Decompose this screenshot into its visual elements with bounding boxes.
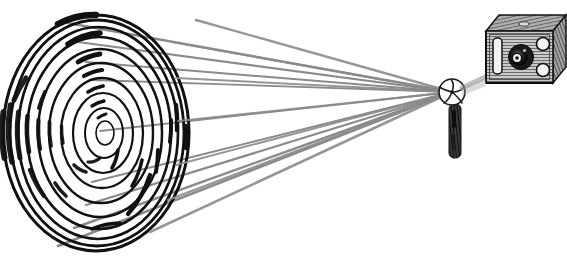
limb-accent-4 — [61, 126, 63, 143]
knob-bottom-right-icon[interactable] — [537, 64, 550, 77]
wheel-hub — [450, 90, 453, 93]
viewfinder-slot-icon[interactable] — [493, 38, 502, 74]
lens-pinhole-icon — [515, 56, 519, 60]
wheel-stem-handle[interactable] — [449, 104, 461, 158]
limb-accent-7 — [27, 116, 29, 152]
ray-diagram-svg: Pinhole camera ray diagram Engraving-sty… — [0, 0, 567, 268]
camera-top-fitting-icon[interactable] — [519, 22, 529, 26]
box-camera[interactable] — [486, 15, 566, 83]
limb-accent-8 — [17, 112, 20, 158]
handle-shadow — [452, 110, 456, 128]
lens-highlight — [523, 49, 526, 52]
limb-accent-5 — [49, 122, 51, 146]
spoked-shutter-wheel[interactable] — [439, 79, 465, 105]
limb-accent-6 — [38, 120, 40, 149]
limb-accent-10 — [2, 112, 4, 158]
tangency-right-8b — [176, 105, 177, 130]
illustration-canvas: Pinhole camera ray diagram Engraving-sty… — [0, 0, 567, 268]
tangency-right-7 — [156, 150, 158, 172]
handle-shadow-lower — [452, 134, 455, 150]
knob-top-right-icon[interactable] — [537, 38, 550, 51]
tangency-right-7b — [170, 120, 171, 142]
